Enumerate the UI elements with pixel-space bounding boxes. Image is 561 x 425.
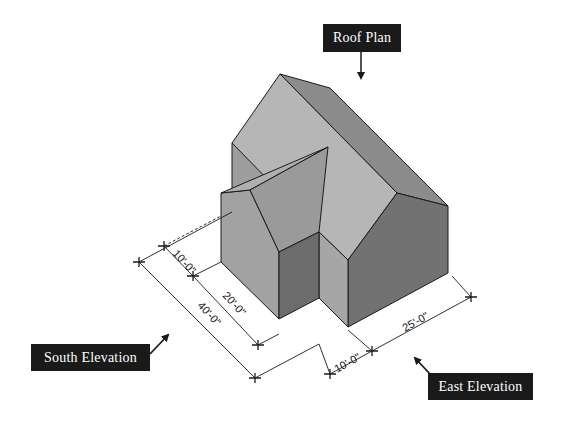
roof-plan-label: Roof Plan	[323, 24, 401, 52]
dim-east-wing-width: 10'-0"	[332, 351, 362, 375]
east-elevation-label: East Elevation	[428, 373, 533, 400]
east-elevation-arrow-icon	[415, 358, 430, 374]
south-elevation-label: South Elevation	[31, 344, 150, 371]
dim-south-main-offset: 20'-0"	[221, 289, 249, 318]
dim-east-main-width: 25'-0"	[400, 310, 430, 334]
dim-south-wing-depth: 10'-0"	[171, 247, 199, 276]
south-elevation-arrow-icon	[150, 335, 168, 354]
house-model	[221, 74, 448, 327]
